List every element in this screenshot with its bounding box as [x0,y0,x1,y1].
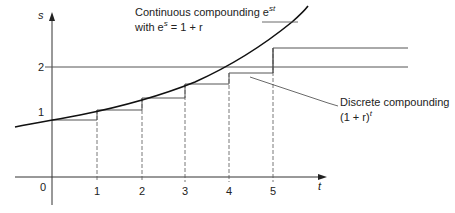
origin-label: 0 [40,181,46,193]
continuous-condition: with es = 1 + r [134,19,203,33]
x-tick-1: 1 [94,185,100,197]
y-tick-1: 1 [38,106,44,118]
discrete-label: Discrete compounding [340,96,449,108]
x-tick-4: 4 [226,185,232,197]
x-tick-3: 3 [182,185,188,197]
x-axis-label: t [318,180,322,192]
discrete-formula: (1 + r)t [340,109,373,123]
dashed-guides [97,48,273,182]
discrete-leader [250,77,338,106]
compounding-diagram: s t 2 1 0 1 2 3 4 5 Continuous compoundi… [0,0,455,213]
x-tick-2: 2 [139,185,145,197]
y-axis-label: s [38,9,44,21]
axes [15,18,320,205]
continuous-label: Continuous compounding est [135,4,276,18]
y-axis-arrow-icon [49,12,55,21]
y-tick-2: 2 [38,61,44,73]
x-tick-5: 5 [270,185,276,197]
